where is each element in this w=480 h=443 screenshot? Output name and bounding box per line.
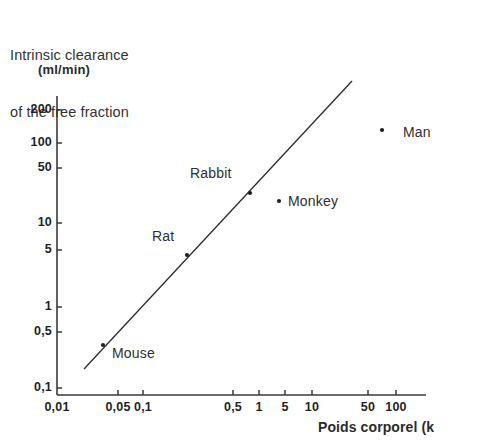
x-axis-tick-label: 0,01	[27, 400, 87, 414]
data-point-label-rabbit: Rabbit	[190, 165, 232, 181]
data-point-monkey	[277, 199, 281, 203]
data-point-markers	[101, 128, 384, 347]
y-axis-tick-label: 0,1	[4, 380, 52, 394]
y-axis-tick-label: 10	[4, 215, 52, 229]
data-point-label-monkey: Monkey	[288, 193, 338, 209]
y-axis-tick-label: 0,5	[4, 324, 52, 338]
y-axis-tick-label: 100	[4, 135, 52, 149]
x-axis-tick-label: 10	[282, 400, 342, 414]
chart-figure: Intrinsic clearance of the free fraction…	[0, 0, 480, 443]
y-axis-unit-label: (ml/min)	[38, 62, 90, 77]
data-point-rat	[185, 253, 189, 257]
x-axis-tick-label: 0,1	[113, 400, 173, 414]
data-point-mouse	[101, 343, 105, 347]
x-axis-title: Poids corporel (k	[318, 419, 434, 435]
y-axis-tick-label: 1	[4, 299, 52, 313]
y-axis-tick-label: 200	[4, 102, 52, 116]
data-point-man	[380, 128, 384, 132]
data-point-label-rat: Rat	[152, 228, 174, 244]
x-axis-tick-label: 100	[366, 400, 426, 414]
data-point-label-man: Man	[403, 124, 431, 140]
y-axis-tick-label: 50	[4, 160, 52, 174]
data-point-rabbit	[248, 191, 252, 195]
y-axis-tick-label: 5	[4, 242, 52, 256]
data-point-label-mouse: Mouse	[112, 345, 155, 361]
